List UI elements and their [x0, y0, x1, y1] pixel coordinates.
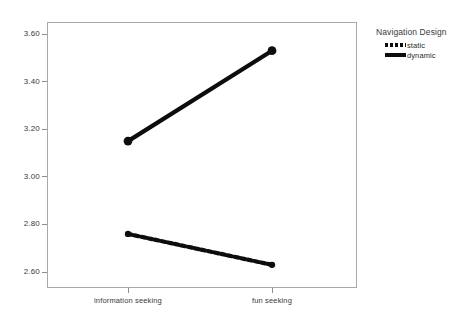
- interaction-plot-figure: 2.602.803.003.203.403.60 information see…: [0, 0, 461, 322]
- y-tick-label: 3.20: [24, 123, 40, 134]
- y-axis: 2.602.803.003.203.403.60: [0, 0, 47, 322]
- y-tick-label: 3.60: [24, 28, 40, 39]
- legend-entries: staticdynamic: [376, 40, 458, 60]
- y-tick-mark: [42, 34, 47, 35]
- x-tick-label: fun seeking: [252, 296, 292, 305]
- x-tick-label: information seeking: [94, 296, 162, 305]
- legend-swatch-static: [385, 43, 406, 47]
- y-tick-label: 3.40: [24, 76, 40, 87]
- y-tick-mark: [42, 176, 47, 177]
- x-tick-mark: [128, 288, 129, 293]
- plot-frame: [47, 22, 357, 288]
- y-tick-label: 2.60: [24, 266, 40, 277]
- legend-swatch-dynamic: [385, 53, 406, 57]
- legend-title: Navigation Design: [376, 27, 458, 37]
- y-tick-mark: [42, 129, 47, 130]
- x-axis: information seekingfun seeking: [0, 288, 461, 322]
- legend-label-static: static: [407, 41, 425, 50]
- legend: Navigation Design staticdynamic: [376, 27, 458, 60]
- legend-entry-static[interactable]: static: [385, 40, 458, 50]
- legend-entry-dynamic[interactable]: dynamic: [385, 50, 458, 60]
- y-tick-label: 3.00: [24, 171, 40, 182]
- y-tick-mark: [42, 224, 47, 225]
- legend-label-dynamic: dynamic: [407, 51, 436, 60]
- cut-off-caption-remnant: [55, 0, 285, 4]
- x-tick-mark: [272, 288, 273, 293]
- y-tick-mark: [42, 272, 47, 273]
- y-tick-label: 2.80: [24, 218, 40, 229]
- y-tick-mark: [42, 81, 47, 82]
